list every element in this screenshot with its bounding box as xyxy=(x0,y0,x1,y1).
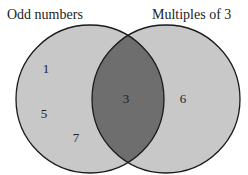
element-7: 7 xyxy=(73,130,80,145)
element-5: 5 xyxy=(41,106,48,121)
venn-diagram: Odd numbers Multiples of 3 1 5 7 3 6 xyxy=(0,0,248,175)
element-3: 3 xyxy=(123,91,130,106)
element-6: 6 xyxy=(180,91,187,106)
multiples-of-3-label: Multiples of 3 xyxy=(152,7,231,22)
odd-numbers-label: Odd numbers xyxy=(7,7,83,22)
element-1: 1 xyxy=(43,61,50,76)
